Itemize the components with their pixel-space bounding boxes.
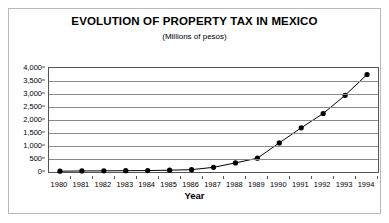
x-tick-mark bbox=[355, 176, 356, 179]
y-tick-label: 3,000 bbox=[23, 89, 42, 98]
gridline bbox=[49, 107, 378, 108]
y-tick-mark bbox=[42, 171, 45, 172]
x-tick-mark bbox=[92, 176, 93, 179]
data-point-marker bbox=[233, 160, 238, 165]
x-tick-label: 1980 bbox=[51, 180, 68, 189]
x-tick-mark bbox=[311, 176, 312, 179]
x-tick-label: 1985 bbox=[160, 180, 177, 189]
x-tick-label: 1982 bbox=[94, 180, 111, 189]
x-tick-label: 1984 bbox=[138, 180, 155, 189]
gridline bbox=[49, 94, 378, 95]
y-axis: 05001,0001,5002,0002,5003,0003,5004,000 bbox=[9, 67, 45, 173]
gridline bbox=[49, 81, 378, 82]
y-tick-mark bbox=[42, 158, 45, 159]
y-tick-label: 1,500 bbox=[23, 128, 42, 137]
y-tick-label: 1,000 bbox=[23, 141, 42, 150]
x-tick-label: 1994 bbox=[358, 180, 375, 189]
x-tick-label: 1991 bbox=[292, 180, 309, 189]
gridline bbox=[49, 159, 378, 160]
y-tick-label: 4,000 bbox=[23, 63, 42, 72]
x-tick-mark bbox=[180, 176, 181, 179]
x-tick-mark bbox=[289, 176, 290, 179]
x-tick-mark bbox=[377, 176, 378, 179]
chart-subtitle: (Millions of pesos) bbox=[9, 32, 380, 41]
x-tick-label: 1989 bbox=[248, 180, 265, 189]
y-tick-label: 500 bbox=[29, 154, 42, 163]
x-tick-mark bbox=[267, 176, 268, 179]
data-point-marker bbox=[189, 167, 194, 172]
data-point-marker bbox=[123, 168, 128, 173]
chart-title: EVOLUTION OF PROPERTY TAX IN MEXICO bbox=[9, 15, 380, 27]
series-line bbox=[60, 75, 367, 172]
gridline bbox=[49, 133, 378, 134]
y-tick-mark bbox=[42, 106, 45, 107]
data-point-marker bbox=[79, 168, 84, 173]
x-tick-mark bbox=[136, 176, 137, 179]
data-point-marker bbox=[145, 168, 150, 173]
y-tick-mark bbox=[42, 67, 45, 68]
x-tick-label: 1986 bbox=[182, 180, 199, 189]
x-tick-mark bbox=[202, 176, 203, 179]
x-tick-label: 1981 bbox=[73, 180, 90, 189]
x-tick-mark bbox=[333, 176, 334, 179]
x-tick-label: 1992 bbox=[314, 180, 331, 189]
data-point-marker bbox=[167, 168, 172, 173]
x-tick-mark bbox=[245, 176, 246, 179]
y-tick-mark bbox=[42, 93, 45, 94]
data-point-marker bbox=[321, 111, 326, 116]
y-tick-mark bbox=[42, 132, 45, 133]
chart-card: EVOLUTION OF PROPERTY TAX IN MEXICO (Mil… bbox=[8, 8, 381, 214]
x-tick-mark bbox=[223, 176, 224, 179]
data-point-marker bbox=[211, 165, 216, 170]
y-tick-label: 2,500 bbox=[23, 102, 42, 111]
y-tick-mark bbox=[42, 145, 45, 146]
y-tick-mark bbox=[42, 119, 45, 120]
data-point-marker bbox=[299, 125, 304, 130]
x-tick-label: 1983 bbox=[116, 180, 133, 189]
x-tick-mark bbox=[114, 176, 115, 179]
data-point-marker bbox=[57, 169, 62, 174]
x-tick-mark bbox=[158, 176, 159, 179]
y-tick-label: 2,000 bbox=[23, 115, 42, 124]
x-tick-label: 1987 bbox=[204, 180, 221, 189]
x-axis-title: Year bbox=[9, 190, 380, 201]
y-tick-mark bbox=[42, 80, 45, 81]
gridline bbox=[49, 146, 378, 147]
x-tick-mark bbox=[70, 176, 71, 179]
plot-area bbox=[48, 67, 379, 173]
data-point-marker bbox=[364, 72, 369, 77]
x-tick-label: 1988 bbox=[226, 180, 243, 189]
x-tick-label: 1990 bbox=[270, 180, 287, 189]
gridline bbox=[49, 120, 378, 121]
x-axis: 1980198119821983198419851986198719881989… bbox=[48, 176, 379, 188]
x-tick-label: 1993 bbox=[336, 180, 353, 189]
data-point-marker bbox=[277, 140, 282, 145]
y-tick-label: 3,500 bbox=[23, 76, 42, 85]
data-point-marker bbox=[101, 168, 106, 173]
